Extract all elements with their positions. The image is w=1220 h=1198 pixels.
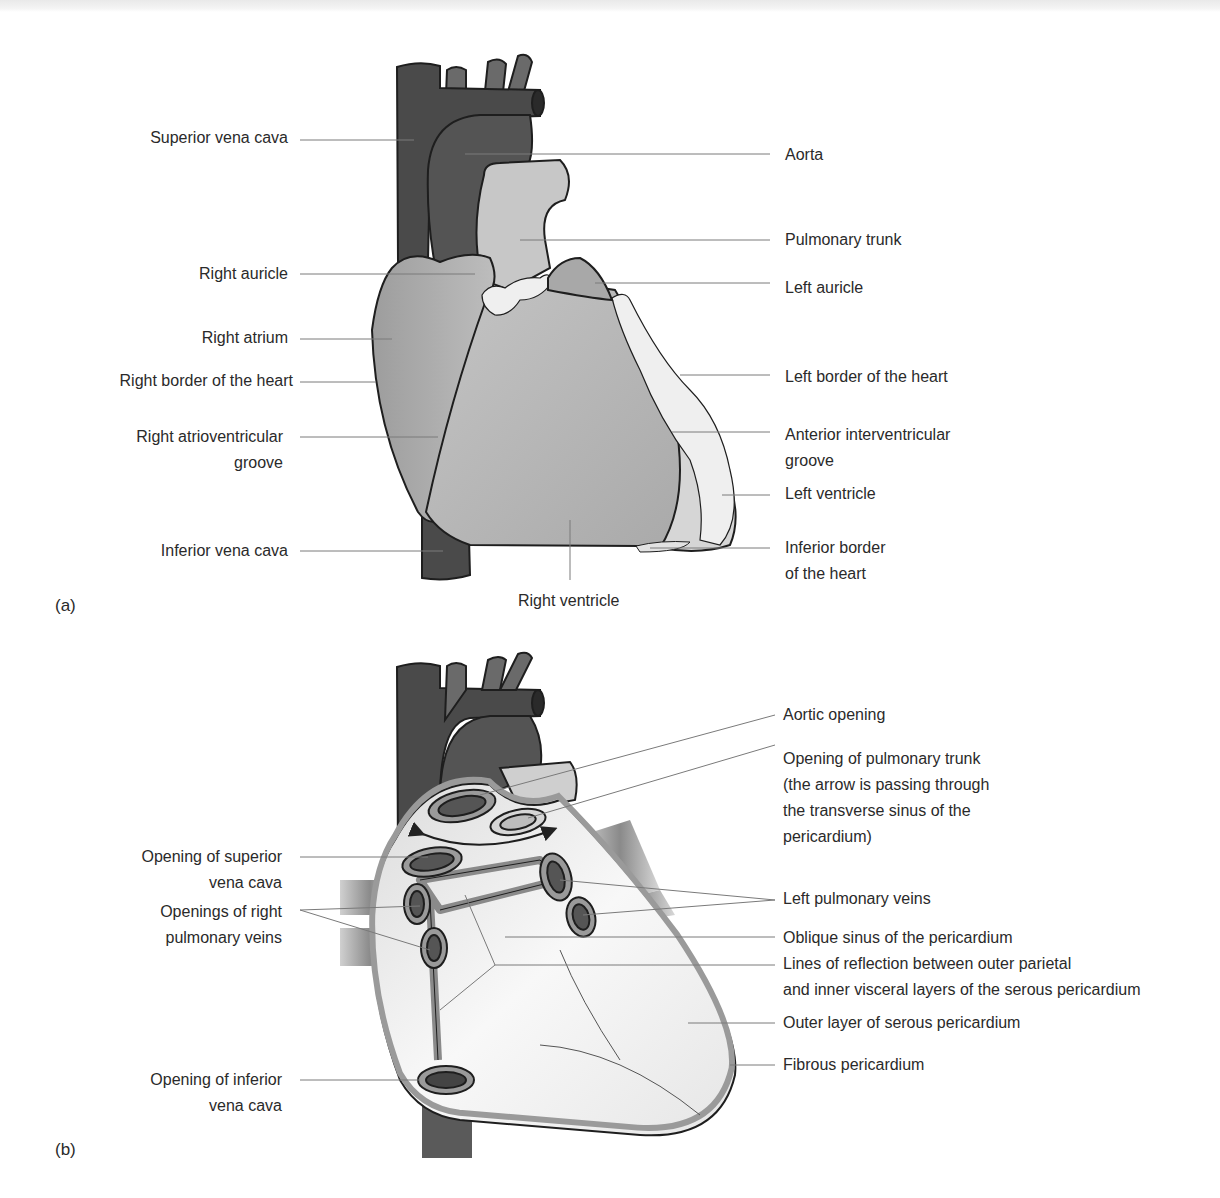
label-right-av-groove-line2: groove [136, 450, 283, 476]
label-oblique-sinus: Oblique sinus of the pericardium [783, 925, 1012, 951]
label-fibrous-pericardium: Fibrous pericardium [783, 1052, 924, 1078]
label-reflection-line2: and inner visceral layers of the serous … [783, 977, 1141, 1003]
label-left-ventricle: Left ventricle [785, 481, 876, 507]
label-right-av-groove: Right atrioventricular groove [136, 424, 283, 476]
label-right-border: Right border of the heart [120, 368, 293, 394]
label-pulm-trunk-opening-line4: pericardium) [783, 824, 989, 850]
label-ivc-opening-line1: Opening of inferior [150, 1067, 282, 1093]
label-inferior-border-line1: Inferior border [785, 535, 886, 561]
pulmonary-artery-end [532, 90, 544, 116]
label-inferior-vena-cava: Inferior vena cava [161, 538, 288, 564]
label-inferior-border: Inferior border of the heart [785, 535, 886, 587]
label-ivc-opening: Opening of inferior vena cava [150, 1067, 282, 1119]
panel-b-drawing [340, 653, 735, 1158]
label-right-av-groove-line1: Right atrioventricular [136, 424, 283, 450]
label-right-auricle: Right auricle [199, 261, 288, 287]
label-inferior-border-line2: of the heart [785, 561, 886, 587]
label-aorta: Aorta [785, 142, 823, 168]
right-pv-opening-upper [404, 884, 430, 924]
label-pulmonary-trunk: Pulmonary trunk [785, 227, 902, 253]
label-right-atrium: Right atrium [202, 325, 288, 351]
label-reflection-line1: Lines of reflection between outer pariet… [783, 951, 1141, 977]
label-outer-serous: Outer layer of serous pericardium [783, 1010, 1020, 1036]
label-pulm-trunk-opening-line3: the transverse sinus of the [783, 798, 989, 824]
label-left-border: Left border of the heart [785, 364, 948, 390]
label-svc-opening-line1: Opening of superior [141, 844, 282, 870]
label-svc-opening: Opening of superior vena cava [141, 844, 282, 896]
label-anterior-iv-groove-line2: groove [785, 448, 950, 474]
label-right-ventricle: Right ventricle [518, 588, 619, 614]
label-superior-vena-cava: Superior vena cava [150, 125, 288, 151]
label-right-pv-line2: pulmonary veins [160, 925, 282, 951]
label-left-auricle: Left auricle [785, 275, 863, 301]
panel-a-tag: (a) [55, 596, 76, 616]
ivc-opening [418, 1066, 474, 1094]
label-right-pv-openings: Openings of right pulmonary veins [160, 899, 282, 951]
label-anterior-iv-groove: Anterior interventricular groove [785, 422, 950, 474]
label-pulm-trunk-opening-line2: (the arrow is passing through [783, 772, 989, 798]
label-pulm-trunk-opening: Opening of pulmonary trunk (the arrow is… [783, 746, 989, 850]
label-anterior-iv-groove-line1: Anterior interventricular [785, 422, 950, 448]
label-aortic-opening: Aortic opening [783, 702, 885, 728]
label-ivc-opening-line2: vena cava [150, 1093, 282, 1119]
label-svc-opening-line2: vena cava [141, 870, 282, 896]
label-pulm-trunk-opening-line1: Opening of pulmonary trunk [783, 746, 989, 772]
label-right-pv-line1: Openings of right [160, 899, 282, 925]
panel-b-tag: (b) [55, 1140, 76, 1160]
panel-a-drawing [372, 55, 736, 580]
label-reflection-lines: Lines of reflection between outer pariet… [783, 951, 1141, 1003]
label-left-pv: Left pulmonary veins [783, 886, 931, 912]
